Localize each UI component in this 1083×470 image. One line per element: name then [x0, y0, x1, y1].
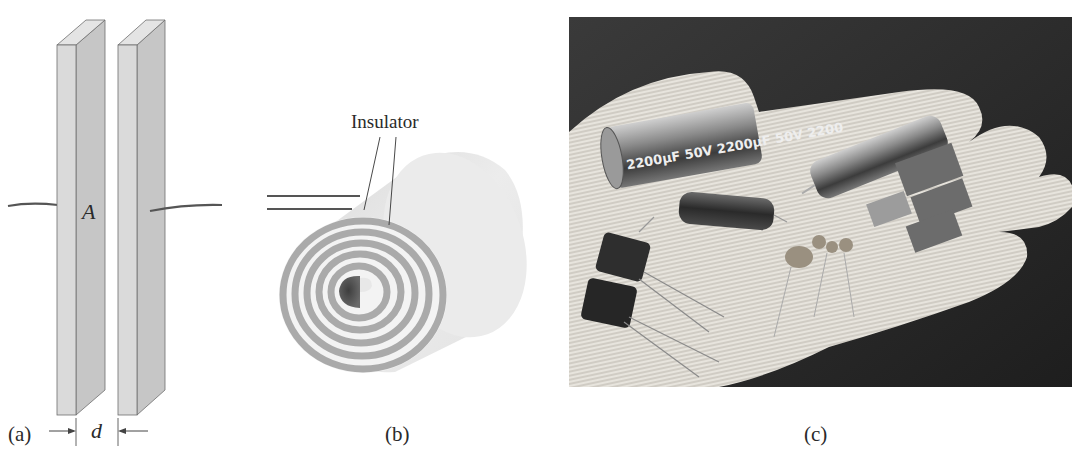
separation-label: d [91, 418, 102, 444]
caption-a: (a) [8, 422, 31, 447]
plate-2 [118, 20, 165, 415]
spiral-capacitor-diagram [240, 0, 560, 470]
panel-a-parallel-plate: A d (a) [0, 0, 240, 470]
plate-1 [57, 20, 105, 415]
caption-b: (b) [385, 422, 410, 447]
left-wire [8, 204, 58, 206]
panel-c-photo: 2200µF 50V 2200µF 50V 2200 [569, 17, 1072, 387]
parallel-plate-diagram [0, 0, 240, 470]
spiral-end-face [279, 217, 447, 373]
area-label: A [82, 199, 95, 225]
capacitors-photo: 2200µF 50V 2200µF 50V 2200 [569, 17, 1072, 387]
panel-b-spiral: Insulator (b) [240, 0, 560, 470]
dimension-arrow-right [118, 428, 148, 434]
insulator-label: Insulator [351, 111, 419, 133]
caption-c: (c) [804, 422, 827, 447]
dimension-arrow-left [49, 428, 76, 434]
